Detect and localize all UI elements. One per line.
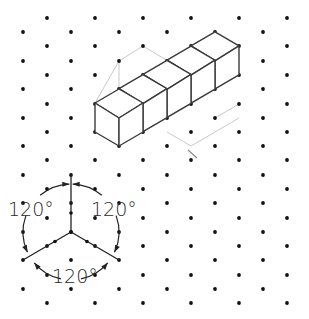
grid-dot xyxy=(237,273,241,277)
grid-dot xyxy=(45,301,49,305)
grid-dot xyxy=(45,158,49,162)
grid-dot xyxy=(261,144,265,148)
axis-dot xyxy=(53,240,57,244)
grid-dot xyxy=(141,158,145,162)
grid-dot xyxy=(213,116,217,120)
grid-dot xyxy=(261,230,265,234)
grid-dot xyxy=(237,102,241,106)
grid-dot xyxy=(165,173,169,177)
angle-label-upper-right: 120° xyxy=(91,198,137,220)
grid-dot xyxy=(285,216,289,220)
axis-dot xyxy=(69,230,73,234)
grid-dot xyxy=(117,30,121,34)
grid-dot xyxy=(21,144,25,148)
grid-dot xyxy=(21,116,25,120)
grid-dot xyxy=(261,287,265,291)
grid-dot xyxy=(261,201,265,205)
grid-dot xyxy=(213,201,217,205)
grid-dot xyxy=(237,158,241,162)
grid-dot xyxy=(21,87,25,91)
grid-dot xyxy=(237,301,241,305)
grid-dot xyxy=(45,16,49,20)
grid-dot xyxy=(237,16,241,20)
grid-dot xyxy=(93,301,97,305)
angle-label-bottom: 120° xyxy=(52,265,98,287)
grid-dot xyxy=(189,187,193,191)
grid-dot xyxy=(189,273,193,277)
grid-dot xyxy=(189,216,193,220)
grid-dot xyxy=(69,287,73,291)
grid-dot xyxy=(285,187,289,191)
grid-dot xyxy=(189,158,193,162)
grid-dot xyxy=(141,301,145,305)
grid-dot xyxy=(261,258,265,262)
axis-dot xyxy=(85,240,89,244)
grid-dot xyxy=(237,130,241,134)
grid-dot xyxy=(117,173,121,177)
grid-dot xyxy=(261,173,265,177)
grid-dot xyxy=(261,87,265,91)
grid-dot xyxy=(45,44,49,48)
grid-dot xyxy=(189,16,193,20)
grid-dot xyxy=(69,116,73,120)
grid-dot xyxy=(285,158,289,162)
grid-dot xyxy=(93,44,97,48)
grid-dot xyxy=(285,44,289,48)
grid-dot xyxy=(261,59,265,63)
grid-dot xyxy=(165,230,169,234)
grid-dot xyxy=(45,130,49,134)
isometric-drawing-canvas: 120° 120° 120° xyxy=(0,0,309,319)
grid-dot xyxy=(69,258,73,262)
grid-dot xyxy=(69,144,73,148)
grid-dot xyxy=(21,30,25,34)
grid-dot xyxy=(165,144,169,148)
grid-dot xyxy=(141,273,145,277)
grid-dot xyxy=(165,201,169,205)
grid-dot xyxy=(141,44,145,48)
grid-dot xyxy=(93,158,97,162)
grid-dot xyxy=(45,102,49,106)
grid-dot xyxy=(141,216,145,220)
grid-dot xyxy=(69,59,73,63)
grid-dot xyxy=(237,187,241,191)
grid-dot xyxy=(285,16,289,20)
grid-dot xyxy=(285,73,289,77)
grid-dot xyxy=(285,244,289,248)
grid-dot xyxy=(21,287,25,291)
grid-dot xyxy=(213,173,217,177)
axis-dot xyxy=(69,211,73,215)
grid-dot xyxy=(165,30,169,34)
grid-dot xyxy=(213,287,217,291)
grid-dot xyxy=(93,73,97,77)
grid-dot xyxy=(141,187,145,191)
grid-dot xyxy=(285,102,289,106)
grid-dot xyxy=(213,144,217,148)
grid-dot xyxy=(117,287,121,291)
grid-dot xyxy=(141,16,145,20)
grid-dot xyxy=(93,16,97,20)
grid-dot xyxy=(21,59,25,63)
grid-dot xyxy=(213,230,217,234)
grid-dot xyxy=(285,301,289,305)
grid-dot xyxy=(285,130,289,134)
grid-dot xyxy=(237,216,241,220)
grid-dot xyxy=(189,301,193,305)
grid-dot xyxy=(117,59,121,63)
grid-dot xyxy=(69,30,73,34)
grid-dot xyxy=(261,116,265,120)
grid-dot xyxy=(69,87,73,91)
grid-dot xyxy=(237,244,241,248)
grid-dot xyxy=(165,287,169,291)
grid-dot xyxy=(21,173,25,177)
grid-dot xyxy=(189,130,193,134)
angle-label-upper-left: 120° xyxy=(8,198,54,220)
grid-dot xyxy=(189,244,193,248)
grid-dot xyxy=(213,258,217,262)
grid-dot xyxy=(165,258,169,262)
grid-dot xyxy=(45,73,49,77)
grid-dot xyxy=(285,273,289,277)
grid-dot xyxy=(141,244,145,248)
grid-dot xyxy=(261,30,265,34)
